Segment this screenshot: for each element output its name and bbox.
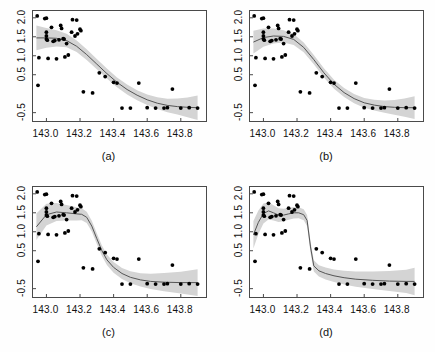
y-tick-label: 0.5: [16, 66, 27, 81]
data-point: [413, 282, 417, 286]
data-point: [75, 18, 79, 22]
data-point: [97, 71, 101, 75]
data-point: [292, 194, 296, 198]
x-tick-label: 143.2: [283, 304, 309, 315]
data-point: [272, 233, 276, 237]
data-point: [308, 91, 312, 95]
data-point: [293, 208, 297, 212]
data-point: [145, 282, 149, 286]
data-point: [60, 203, 64, 207]
x-tick-label: 143.8: [167, 128, 193, 139]
data-point: [154, 282, 158, 286]
data-point: [187, 282, 191, 286]
data-point: [404, 282, 408, 286]
data-point: [272, 57, 276, 61]
y-tick-label: 2.0: [16, 10, 27, 25]
data-point: [267, 25, 271, 29]
data-point: [166, 282, 170, 286]
x-tick-label: 143.2: [66, 304, 92, 315]
data-point: [288, 18, 292, 22]
data-point: [277, 27, 281, 31]
panel-a: -0.50.51.01.52.0 143.0143.2143.4143.6143…: [0, 0, 217, 176]
data-point: [262, 206, 266, 210]
panel-d-plot-area: [249, 186, 424, 298]
data-point: [354, 81, 358, 85]
data-point: [53, 215, 57, 219]
data-point: [404, 106, 408, 110]
data-point: [66, 229, 70, 233]
panel-a-y-axis-labels: -0.50.51.01.52.0: [0, 0, 32, 130]
data-point: [282, 218, 286, 222]
data-point: [354, 257, 358, 261]
x-tick-label: 143.4: [100, 304, 126, 315]
data-point: [279, 213, 283, 217]
data-point: [36, 83, 40, 87]
data-point: [162, 282, 166, 286]
panel-d-y-axis-labels: -0.50.51.01.52.0: [217, 176, 249, 306]
data-point: [65, 42, 69, 46]
data-point: [171, 263, 175, 267]
data-point: [65, 218, 69, 222]
panel-d-label: (d): [217, 326, 435, 338]
data-point: [262, 192, 266, 196]
data-point: [371, 106, 375, 110]
panel-c-label: (c): [0, 326, 217, 338]
data-point: [55, 233, 59, 237]
data-point: [314, 71, 318, 75]
figure-panel-grid: -0.50.51.01.52.0 143.0143.2143.4143.6143…: [0, 0, 435, 352]
data-point: [262, 30, 266, 34]
data-point: [57, 214, 61, 218]
y-tick-label: 2.0: [233, 10, 244, 25]
data-point: [252, 190, 256, 194]
data-point: [129, 106, 133, 110]
data-point: [129, 282, 133, 286]
data-point: [320, 75, 324, 79]
data-point: [171, 87, 175, 91]
data-point: [262, 38, 266, 42]
data-point: [45, 30, 49, 34]
data-point: [308, 267, 312, 271]
fit-line: [253, 36, 414, 108]
data-point: [293, 32, 297, 36]
fit-line: [36, 38, 197, 108]
data-point: [45, 38, 49, 42]
data-point: [45, 206, 49, 210]
data-point: [274, 214, 278, 218]
data-point: [253, 83, 257, 87]
y-tick-label: 0.5: [233, 242, 244, 257]
data-point: [396, 282, 400, 286]
data-point: [279, 37, 283, 41]
data-point: [97, 247, 101, 251]
panel-c-y-axis-labels: -0.50.51.01.52.0: [0, 176, 32, 306]
data-point: [187, 106, 191, 110]
data-point: [36, 259, 40, 263]
x-tick-label: 143.8: [167, 304, 193, 315]
panel-a-label: (a): [0, 150, 217, 162]
data-point: [70, 30, 74, 34]
data-point: [337, 282, 341, 286]
data-point: [76, 32, 80, 36]
panel-b-y-axis-labels: -0.50.51.01.52.0: [217, 0, 249, 130]
data-point: [379, 282, 383, 286]
x-tick-label: 143.6: [350, 128, 376, 139]
data-point: [45, 214, 49, 218]
data-point: [103, 75, 107, 79]
data-point: [145, 106, 149, 110]
panel-b-canvas: [250, 11, 423, 121]
panel-b-label: (b): [217, 150, 435, 162]
data-point: [329, 256, 333, 260]
data-point: [103, 251, 107, 255]
data-point: [50, 25, 54, 29]
data-point: [283, 53, 287, 57]
data-point: [254, 232, 258, 236]
data-point: [292, 18, 296, 22]
data-point: [383, 106, 387, 110]
data-point: [46, 233, 50, 237]
data-point: [288, 194, 292, 198]
data-point: [82, 90, 86, 94]
data-point: [115, 81, 119, 85]
data-point: [314, 247, 318, 251]
data-point: [282, 42, 286, 46]
data-point: [79, 29, 83, 33]
data-point: [267, 201, 271, 205]
